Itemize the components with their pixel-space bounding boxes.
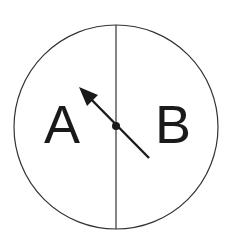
section-label-b: B	[155, 94, 191, 154]
pivot-dot	[112, 122, 120, 130]
spinner-diagram: A B	[0, 0, 229, 249]
section-label-a: A	[44, 94, 80, 154]
